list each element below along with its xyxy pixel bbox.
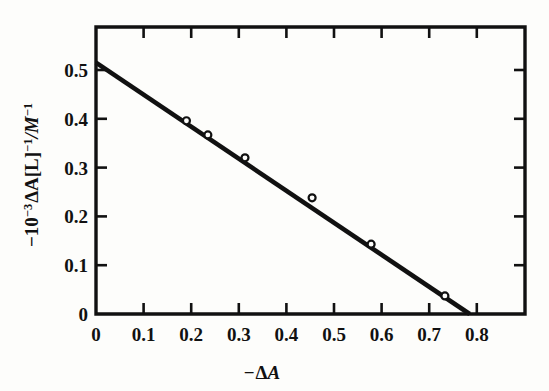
y-tick-label: 0.4	[64, 109, 88, 130]
plot-frame	[96, 27, 525, 314]
data-point-marker	[241, 154, 248, 161]
y-axis-title: −10−3ΔA[L]−1/M−1	[21, 103, 42, 247]
tick-marks-group	[96, 27, 525, 314]
y-tick-label: 0.5	[64, 60, 88, 81]
y-tick-label: 0.3	[64, 158, 88, 179]
data-point-marker	[183, 117, 190, 124]
y-title-exp-neg1-b: −1	[21, 103, 35, 116]
data-point-marker	[368, 241, 375, 248]
svg-text:−ΔA: −ΔA	[244, 362, 280, 383]
y-tick-labels-group: 00.10.20.30.40.5	[64, 60, 88, 325]
y-title-slash-m: /M	[21, 115, 42, 140]
y-title-exp-neg3: −3	[21, 204, 35, 217]
x-tick-label: 0	[91, 324, 101, 345]
y-tick-label: 0	[79, 304, 89, 325]
x-tick-label: 0.1	[132, 324, 156, 345]
y-tick-label: 0.1	[64, 255, 88, 276]
svg-text:−10−3ΔA[L]−1/M−1: −10−3ΔA[L]−1/M−1	[21, 103, 42, 247]
x-tick-label: 0.6	[370, 324, 394, 345]
x-axis-title: −ΔA	[244, 362, 280, 383]
y-title-delta-a: ΔA[L]	[21, 152, 42, 203]
plot-canvas: 00.10.20.30.40.50.60.70.8 00.10.20.30.40…	[0, 0, 549, 391]
data-point-marker	[441, 292, 448, 299]
data-point-marker	[204, 131, 211, 138]
x-title-minus: −	[244, 362, 255, 383]
fit-line-group	[96, 63, 470, 314]
fit-line	[96, 63, 470, 314]
x-tick-label: 0.8	[465, 324, 489, 345]
x-tick-label: 0.3	[227, 324, 251, 345]
x-tick-label: 0.7	[417, 324, 441, 345]
y-title-ten: 10	[21, 217, 42, 236]
x-title-a: A	[267, 362, 281, 383]
x-tick-label: 0.4	[275, 324, 299, 345]
x-tick-label: 0.5	[322, 324, 346, 345]
y-title-minus: −	[21, 236, 42, 247]
data-point-marker	[309, 194, 316, 201]
y-tick-label: 0.2	[64, 206, 88, 227]
y-title-exp-neg1-a: −1	[21, 139, 35, 152]
x-tick-labels-group: 00.10.20.30.40.50.60.70.8	[91, 324, 488, 345]
x-tick-label: 0.2	[179, 324, 203, 345]
figure-container: 00.10.20.30.40.50.60.70.8 00.10.20.30.40…	[0, 0, 549, 391]
x-title-delta: Δ	[256, 362, 268, 383]
